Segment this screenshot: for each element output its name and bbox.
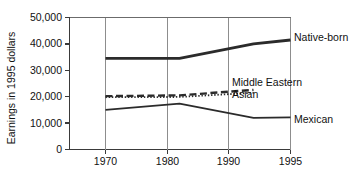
series-line-mexican	[106, 104, 291, 118]
y-tick-label-30000: 30,000	[30, 64, 62, 76]
y-tick-labels: 50,000 40,000 30,000 20,000 10,000 0	[30, 11, 62, 155]
y-tick-label-10000: 10,000	[30, 117, 62, 129]
y-axis-title-group: Earnings in 1995 dollars	[5, 32, 17, 145]
x-tick-label-1980: 1980	[156, 155, 180, 167]
series-label-middle-eastern: Middle Eastern	[232, 76, 302, 88]
x-tick-label-1990: 1990	[217, 155, 241, 167]
series-label-mexican: Mexican	[294, 113, 333, 125]
x-tick-labels: 1970 1980 1990 1995	[94, 155, 303, 167]
y-tick-label-0: 0	[56, 143, 62, 155]
y-tick-label-40000: 40,000	[30, 37, 62, 49]
x-tick-label-1970: 1970	[94, 155, 118, 167]
series-label-native-born: Native-born	[294, 31, 348, 43]
line-chart: Earnings in 1995 dollars 50,000 40,000 3…	[0, 0, 358, 178]
y-axis-title: Earnings in 1995 dollars	[5, 32, 17, 145]
y-tick-label-20000: 20,000	[30, 90, 62, 102]
series-label-asian: Asian	[232, 88, 258, 100]
y-tick-label-50000: 50,000	[30, 11, 62, 23]
series-line-native-born	[106, 40, 291, 58]
x-tick-label-1995: 1995	[279, 155, 303, 167]
